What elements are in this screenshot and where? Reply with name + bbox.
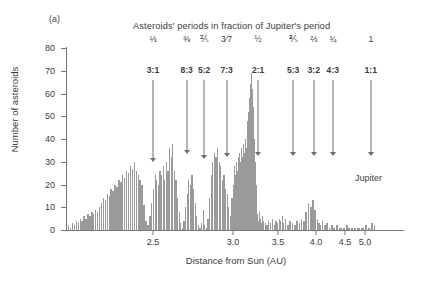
histogram-bar <box>351 228 353 230</box>
resonance-arrow-line <box>293 80 294 152</box>
panel-label: (a) <box>49 15 60 24</box>
x-axis-title: Distance from Sun (AU) <box>126 255 346 266</box>
x-tick-mark <box>153 231 154 235</box>
histogram-bar <box>365 225 367 230</box>
resonance-arrow-line <box>370 80 371 152</box>
y-tick-label: 30 <box>29 157 55 167</box>
y-tick-label: 10 <box>29 202 55 212</box>
asteroid-distribution-figure: (a) Asteroids' periods in fraction of Ju… <box>0 0 422 282</box>
resonance-ratio-label: 5:2 <box>198 65 210 75</box>
histogram-bar <box>339 228 342 230</box>
x-tick-label: 4.0 <box>301 237 331 247</box>
resonance-fraction-label: ⅓ <box>149 34 156 44</box>
histogram-bar <box>333 228 335 230</box>
y-tick-label: 70 <box>29 66 55 76</box>
histogram-bar <box>343 228 345 230</box>
resonance-arrow-line <box>153 80 154 158</box>
histogram-bar <box>368 228 370 230</box>
x-tick-label: 3.5 <box>263 237 293 247</box>
x-tick-mark <box>316 231 317 235</box>
histogram-bar <box>357 228 360 230</box>
x-tick-label: 3.0 <box>218 237 248 247</box>
y-tick-label: 20 <box>29 180 55 190</box>
histogram-bar <box>354 228 356 230</box>
resonance-arrow-line <box>313 80 314 152</box>
x-tick-mark <box>278 231 279 235</box>
chart-title: Asteroids' periods in fraction of Jupite… <box>133 22 330 31</box>
resonance-arrow-head <box>311 152 317 156</box>
histogram-bar <box>336 225 338 230</box>
histogram-bar <box>348 228 350 230</box>
resonance-arrow-head <box>330 152 336 156</box>
resonance-ratio-label: 2:1 <box>252 65 264 75</box>
histogram-bar <box>374 225 375 230</box>
resonance-fraction-label: ⅗ <box>289 34 298 44</box>
resonance-arrow-head <box>290 152 296 156</box>
resonance-fraction-label: 3⁄7 <box>221 34 232 44</box>
resonance-arrow-line <box>258 80 259 152</box>
y-tick-label: 0 <box>29 225 55 235</box>
resonance-ratio-label: 4:3 <box>327 65 339 75</box>
x-tick-mark <box>365 231 366 235</box>
resonance-fraction-label: ⅜ <box>183 34 190 44</box>
resonance-arrow-head <box>255 152 261 156</box>
resonance-fraction-label: ⅖ <box>200 34 209 44</box>
resonance-ratio-label: 5:3 <box>287 65 299 75</box>
histogram-plot-area <box>66 48 404 230</box>
resonance-fraction-label: ½ <box>255 34 262 44</box>
resonance-arrow-head <box>368 152 374 156</box>
y-tick-label: 60 <box>29 89 55 99</box>
resonance-arrow-head <box>224 153 230 157</box>
resonance-arrow-line <box>332 80 333 152</box>
x-axis-line <box>66 230 404 231</box>
resonance-ratio-label: 3:2 <box>308 65 320 75</box>
y-tick-mark <box>61 230 66 231</box>
x-tick-label: 2.5 <box>138 237 168 247</box>
resonance-arrow-line <box>226 80 227 153</box>
y-axis-title: Number of asteroids <box>9 50 20 170</box>
x-tick-mark <box>233 231 234 235</box>
resonance-fraction-label: 1 <box>368 34 373 44</box>
resonance-arrow-line <box>204 80 205 155</box>
histogram-bar <box>371 223 373 230</box>
y-tick-label: 50 <box>29 111 55 121</box>
resonance-fraction-label: ⅔ <box>310 34 317 44</box>
resonance-arrow-line <box>186 80 187 150</box>
histogram-bar <box>361 228 364 230</box>
resonance-ratio-label: 3:1 <box>147 65 159 75</box>
y-tick-label: 80 <box>29 43 55 53</box>
resonance-fraction-label: ¾ <box>329 34 336 44</box>
x-tick-mark <box>345 231 346 235</box>
resonance-arrow-head <box>184 150 190 154</box>
y-tick-label: 40 <box>29 134 55 144</box>
resonance-ratio-label: 8:3 <box>180 65 192 75</box>
resonance-arrow-head <box>150 158 156 162</box>
resonance-arrow-head <box>201 155 207 159</box>
x-tick-label: 5.0 <box>350 237 380 247</box>
resonance-ratio-label: 7:3 <box>220 65 232 75</box>
resonance-ratio-label: 1:1 <box>365 65 377 75</box>
